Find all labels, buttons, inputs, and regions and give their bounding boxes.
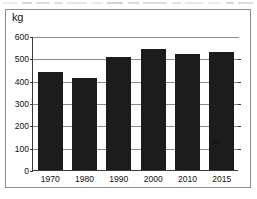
y-tick-mark-0 — [30, 171, 33, 172]
plot-area: 0100200300400500600197019801990200020102… — [32, 37, 238, 171]
gridline-100 — [33, 149, 239, 150]
bar-2000 — [141, 49, 166, 170]
y-tick-mark-right-300 — [238, 104, 241, 105]
y-tick-mark-right-200 — [238, 126, 241, 127]
y-tick-label-300: 300 — [15, 100, 29, 109]
y-tick-label-500: 500 — [15, 55, 29, 64]
x-tick-label-1990: 1990 — [109, 174, 128, 184]
gridline-500 — [33, 59, 239, 60]
gridline-200 — [33, 126, 239, 127]
x-tick-label-1980: 1980 — [75, 174, 94, 184]
y-tick-mark-right-500 — [238, 59, 241, 60]
y-tick-mark-300 — [30, 104, 33, 105]
bar-chart: kg 0100200300400500600197019801990200020… — [0, 0, 257, 199]
bar-2010 — [175, 54, 200, 170]
bar-1970 — [38, 72, 63, 170]
bar-2015 — [209, 52, 234, 170]
bar-1980 — [72, 78, 97, 170]
y-tick-label-0: 0 — [24, 167, 29, 176]
gridline-300 — [33, 104, 239, 105]
y-tick-mark-100 — [30, 149, 33, 150]
gridline-400 — [33, 82, 239, 83]
x-tick-label-2000: 2000 — [144, 174, 163, 184]
y-tick-mark-200 — [30, 126, 33, 127]
y-tick-mark-600 — [30, 37, 33, 38]
y-tick-mark-400 — [30, 82, 33, 83]
y-tick-label-100: 100 — [15, 144, 29, 153]
y-tick-label-400: 400 — [15, 77, 29, 86]
y-tick-label-200: 200 — [15, 122, 29, 131]
y-tick-label-600: 600 — [15, 33, 29, 42]
y-tick-mark-500 — [30, 59, 33, 60]
x-tick-label-1970: 1970 — [41, 174, 60, 184]
bar-1990 — [106, 57, 131, 170]
gridline-600 — [33, 37, 239, 38]
x-axis-unit-label: 年 — [212, 137, 221, 147]
x-tick-label-2010: 2010 — [178, 174, 197, 184]
y-tick-mark-right-400 — [238, 82, 241, 83]
y-tick-mark-right-100 — [238, 149, 241, 150]
y-axis-unit-label: kg — [12, 12, 23, 23]
x-tick-label-2015: 2015 — [212, 174, 231, 184]
